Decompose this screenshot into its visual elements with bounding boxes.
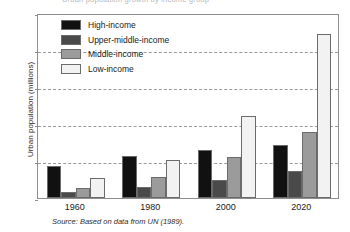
- source-caption: Source: Based on data from UN (1989).: [52, 217, 184, 226]
- legend-item: Middle-income: [61, 47, 191, 62]
- legend-item: Upper-middle-income: [61, 33, 191, 48]
- y-axis-title: Urban population (millions): [26, 25, 35, 195]
- chart-legend: High-incomeUpper-middle-incomeMiddle-inc…: [61, 18, 191, 76]
- x-axis-tick-label: 2000: [216, 202, 236, 212]
- legend-swatch-icon: [61, 49, 81, 59]
- legend-item-label: High-income: [88, 20, 136, 30]
- legend-item-label: Middle-income: [88, 49, 143, 59]
- y-axis-tick-mark: [35, 200, 38, 201]
- bar: [122, 156, 137, 198]
- x-axis-tick-label: 1980: [140, 202, 160, 212]
- legend-swatch-icon: [61, 35, 81, 45]
- x-axis-tick-label: 2020: [291, 202, 311, 212]
- legend-item-label: Upper-middle-income: [88, 35, 169, 45]
- bar: [227, 157, 242, 198]
- bar: [198, 150, 213, 198]
- bar: [47, 166, 62, 198]
- bar: [151, 177, 166, 198]
- legend-swatch-icon: [61, 64, 81, 74]
- bar: [241, 116, 256, 198]
- legend-swatch-icon: [61, 20, 81, 30]
- legend-item-label: Low-income: [88, 64, 134, 74]
- bar: [212, 180, 227, 199]
- bar: [288, 171, 303, 198]
- bar-chart-figure: Urban population (millions) 050010001500…: [0, 0, 350, 232]
- bar: [302, 132, 317, 198]
- bar: [90, 178, 105, 198]
- x-axis-tick-label: 1960: [65, 202, 85, 212]
- bar: [273, 145, 288, 198]
- bar: [166, 160, 181, 198]
- bar: [61, 192, 76, 198]
- bar: [76, 188, 91, 198]
- bar: [317, 34, 332, 198]
- legend-item: Low-income: [61, 62, 191, 77]
- bar: [137, 187, 152, 198]
- legend-item: High-income: [61, 18, 191, 33]
